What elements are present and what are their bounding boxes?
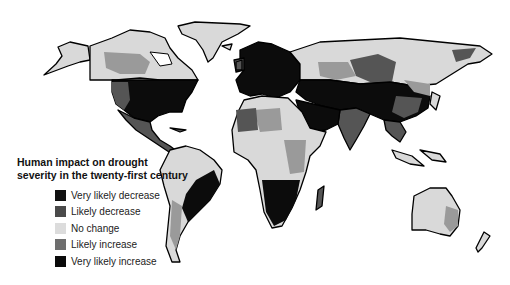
legend-label: Very likely decrease xyxy=(71,190,160,201)
legend-item-very-likely-increase: Very likely increase xyxy=(55,253,188,270)
legend-title-line2: severity in the twenty-first century xyxy=(17,169,188,182)
swatch-likely-decrease xyxy=(55,206,66,217)
new-zealand xyxy=(476,232,490,252)
india xyxy=(338,108,370,150)
se-asia xyxy=(384,120,406,142)
legend-label: No change xyxy=(71,223,119,234)
legend-item-very-likely-decrease: Very likely decrease xyxy=(55,187,188,204)
legend-title-line1: Human impact on drought xyxy=(17,156,188,169)
legend-label: Likely increase xyxy=(71,239,137,250)
greenland xyxy=(178,22,250,62)
alaska xyxy=(44,42,90,75)
swatch-very-likely-decrease xyxy=(55,190,66,201)
legend: Human impact on drought severity in the … xyxy=(17,156,188,270)
swatch-no-change xyxy=(55,223,66,234)
legend-item-no-change: No change xyxy=(55,220,188,237)
madagascar xyxy=(316,186,324,210)
legend-label: Likely decrease xyxy=(71,206,140,217)
swatch-very-likely-increase xyxy=(55,256,66,267)
swatch-likely-increase xyxy=(55,239,66,250)
legend-item-likely-increase: Likely increase xyxy=(55,237,188,254)
legend-item-likely-decrease: Likely decrease xyxy=(55,204,188,221)
legend-items: Very likely decrease Likely decrease No … xyxy=(55,187,188,270)
legend-label: Very likely increase xyxy=(71,256,157,267)
europe xyxy=(236,42,300,98)
